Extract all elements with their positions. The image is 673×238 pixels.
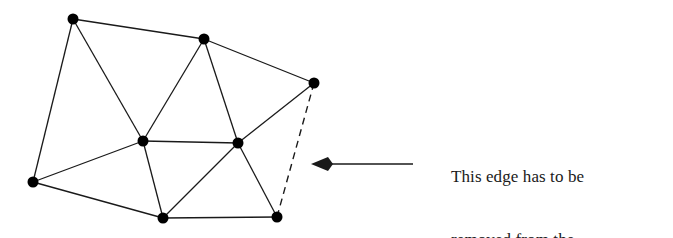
edge-bottom-middle-to-bottom-right xyxy=(163,217,277,218)
arrow-head-icon xyxy=(311,157,333,171)
edge-top-left-to-center-left xyxy=(73,19,143,141)
right-vertex xyxy=(309,78,320,89)
edge-left-to-bottom-middle xyxy=(33,182,163,218)
center-right-vertex xyxy=(233,138,244,149)
edge-top-middle-to-center-left xyxy=(143,39,204,141)
bottom-middle-vertex xyxy=(158,213,169,224)
bottom-right-vertex xyxy=(272,212,283,223)
edge-top-left-to-top-middle xyxy=(73,19,204,39)
edge-top-left-to-left xyxy=(33,19,73,182)
solid-edges-group xyxy=(33,19,314,218)
edge-center-left-to-bottom-middle xyxy=(143,141,163,218)
arrow-annotation xyxy=(311,157,413,171)
edge-top-middle-to-center-right xyxy=(204,39,238,143)
edge-left-to-center-left xyxy=(33,141,143,182)
annotation-line-1: This edge has to be xyxy=(451,166,666,187)
center-left-vertex xyxy=(138,136,149,147)
dashed-edges-group xyxy=(277,83,314,217)
top-middle-vertex xyxy=(199,34,210,45)
edge-center-right-to-bottom-middle xyxy=(163,143,238,218)
edge-center-left-to-center-right xyxy=(143,141,238,143)
edge-to-be-removed xyxy=(277,83,314,217)
annotation-line-2: removed from the xyxy=(451,229,666,238)
edge-right-to-center-right xyxy=(238,83,314,143)
edge-center-right-to-bottom-right xyxy=(238,143,277,217)
top-left-vertex xyxy=(68,14,79,25)
left-vertex xyxy=(28,177,39,188)
annotation-caption: This edge has to be removed from the Del… xyxy=(451,124,666,238)
edge-top-middle-to-right xyxy=(204,39,314,83)
figure-root: This edge has to be removed from the Del… xyxy=(0,0,673,238)
